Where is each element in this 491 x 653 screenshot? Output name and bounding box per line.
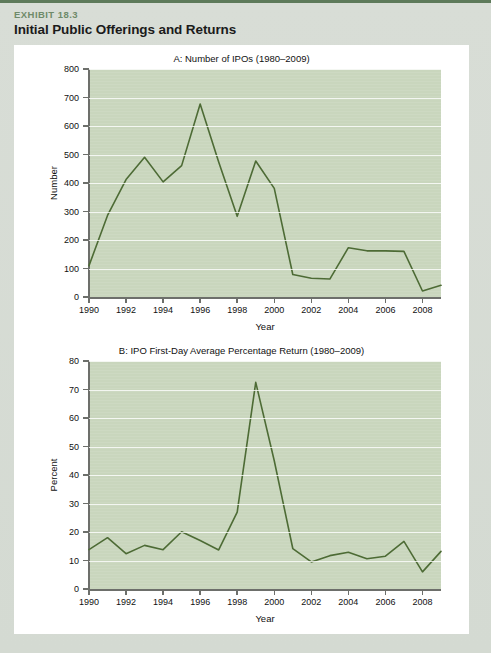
chart-b-x-axis xyxy=(88,589,441,591)
x-axis-tick-label: 2008 xyxy=(412,597,432,607)
y-axis-tick-label: 600 xyxy=(64,121,79,131)
gridline xyxy=(89,240,441,241)
y-axis-tick xyxy=(83,268,89,270)
gridline xyxy=(89,390,441,391)
y-axis-tick xyxy=(83,125,89,127)
x-axis-tick-label: 2000 xyxy=(264,597,284,607)
x-axis-tick xyxy=(422,297,424,303)
x-axis-tick xyxy=(236,589,238,595)
chart-b-plot: Percent Year 010203040506070801990199219… xyxy=(89,361,441,589)
x-axis-tick xyxy=(199,297,201,303)
gridline xyxy=(89,361,441,362)
x-axis-tick-label: 1996 xyxy=(190,305,210,315)
chart-panel-a: A: Number of IPOs (1980–2009) Number Yea… xyxy=(14,53,469,343)
y-axis-tick-label: 60 xyxy=(69,413,79,423)
x-axis-tick-label: 2008 xyxy=(412,305,432,315)
x-axis-tick-label: 1994 xyxy=(153,597,173,607)
exhibit-number: EXHIBIT 18.3 xyxy=(14,9,474,20)
x-axis-tick-label: 2006 xyxy=(375,597,395,607)
x-axis-tick-label: 1992 xyxy=(116,305,136,315)
y-axis-tick-label: 10 xyxy=(69,556,79,566)
y-axis-tick xyxy=(83,211,89,213)
y-axis-tick xyxy=(83,154,89,156)
y-axis-tick xyxy=(83,182,89,184)
gridline xyxy=(89,532,441,533)
x-axis-tick xyxy=(348,297,350,303)
x-axis-tick-label: 1998 xyxy=(227,305,247,315)
gridline xyxy=(89,212,441,213)
y-axis-tick xyxy=(83,531,89,533)
figure-card: A: Number of IPOs (1980–2009) Number Yea… xyxy=(14,45,469,634)
x-axis-tick xyxy=(88,589,90,595)
chart-b-y-axis-label: Percent xyxy=(48,459,59,492)
x-axis-tick xyxy=(385,297,387,303)
chart-a-title: A: Number of IPOs (1980–2009) xyxy=(14,53,469,64)
gridline xyxy=(89,561,441,562)
y-axis-tick xyxy=(83,97,89,99)
y-axis-tick-label: 70 xyxy=(69,385,79,395)
gridline xyxy=(89,69,441,70)
y-axis-tick xyxy=(83,360,89,362)
gridline xyxy=(89,504,441,505)
y-axis-tick-label: 300 xyxy=(64,207,79,217)
x-axis-tick xyxy=(274,297,276,303)
x-axis-tick-label: 1996 xyxy=(190,597,210,607)
y-axis-tick-label: 30 xyxy=(69,499,79,509)
y-axis-tick-label: 0 xyxy=(74,292,79,302)
y-axis-tick xyxy=(83,446,89,448)
x-axis-tick xyxy=(422,589,424,595)
y-axis-tick-label: 700 xyxy=(64,93,79,103)
x-axis-tick xyxy=(125,297,127,303)
x-axis-tick-label: 2002 xyxy=(301,597,321,607)
x-axis-tick xyxy=(162,589,164,595)
y-axis-tick-label: 0 xyxy=(74,584,79,594)
x-axis-tick-label: 1990 xyxy=(79,305,99,315)
chart-a-plot: Number Year 0100200300400500600700800199… xyxy=(89,69,441,297)
x-axis-tick xyxy=(348,589,350,595)
gridline xyxy=(89,183,441,184)
x-axis-tick xyxy=(236,297,238,303)
x-axis-tick xyxy=(311,297,313,303)
y-axis-tick xyxy=(83,389,89,391)
chart-b-title: B: IPO First-Day Average Percentage Retu… xyxy=(14,345,469,356)
y-axis-tick-label: 500 xyxy=(64,150,79,160)
y-axis-tick xyxy=(83,417,89,419)
chart-a-y-axis-label: Number xyxy=(48,166,59,200)
x-axis-tick xyxy=(162,297,164,303)
x-axis-tick xyxy=(88,297,90,303)
y-axis-tick xyxy=(83,474,89,476)
gridline xyxy=(89,269,441,270)
chart-a-x-axis-label: Year xyxy=(89,321,441,332)
chart-a-x-axis xyxy=(88,297,441,299)
exhibit-title: Initial Public Offerings and Returns xyxy=(14,22,474,37)
exhibit-header: EXHIBIT 18.3 Initial Public Offerings an… xyxy=(14,9,474,37)
y-axis-tick-label: 50 xyxy=(69,442,79,452)
x-axis-tick xyxy=(199,589,201,595)
gridline xyxy=(89,126,441,127)
x-axis-tick xyxy=(274,589,276,595)
x-axis-tick xyxy=(385,589,387,595)
y-axis-tick xyxy=(83,68,89,70)
y-axis-tick-label: 800 xyxy=(64,64,79,74)
y-axis-tick xyxy=(83,239,89,241)
chart-b-x-axis-label: Year xyxy=(89,613,441,624)
y-axis-tick-label: 20 xyxy=(69,527,79,537)
x-axis-tick-label: 2000 xyxy=(264,305,284,315)
x-axis-tick-label: 1992 xyxy=(116,597,136,607)
chart-panel-b: B: IPO First-Day Average Percentage Retu… xyxy=(14,345,469,634)
y-axis-tick-label: 100 xyxy=(64,264,79,274)
y-axis-tick-label: 80 xyxy=(69,356,79,366)
y-axis-tick-label: 40 xyxy=(69,470,79,480)
y-axis-tick xyxy=(83,503,89,505)
x-axis-tick-label: 2004 xyxy=(338,597,358,607)
x-axis-tick-label: 1994 xyxy=(153,305,173,315)
gridline xyxy=(89,475,441,476)
x-axis-tick-label: 1998 xyxy=(227,597,247,607)
y-axis-tick-label: 400 xyxy=(64,178,79,188)
x-axis-tick xyxy=(311,589,313,595)
x-axis-tick-label: 2002 xyxy=(301,305,321,315)
x-axis-tick-label: 1990 xyxy=(79,597,99,607)
x-axis-tick-label: 2006 xyxy=(375,305,395,315)
y-axis-tick xyxy=(83,560,89,562)
gridline xyxy=(89,155,441,156)
